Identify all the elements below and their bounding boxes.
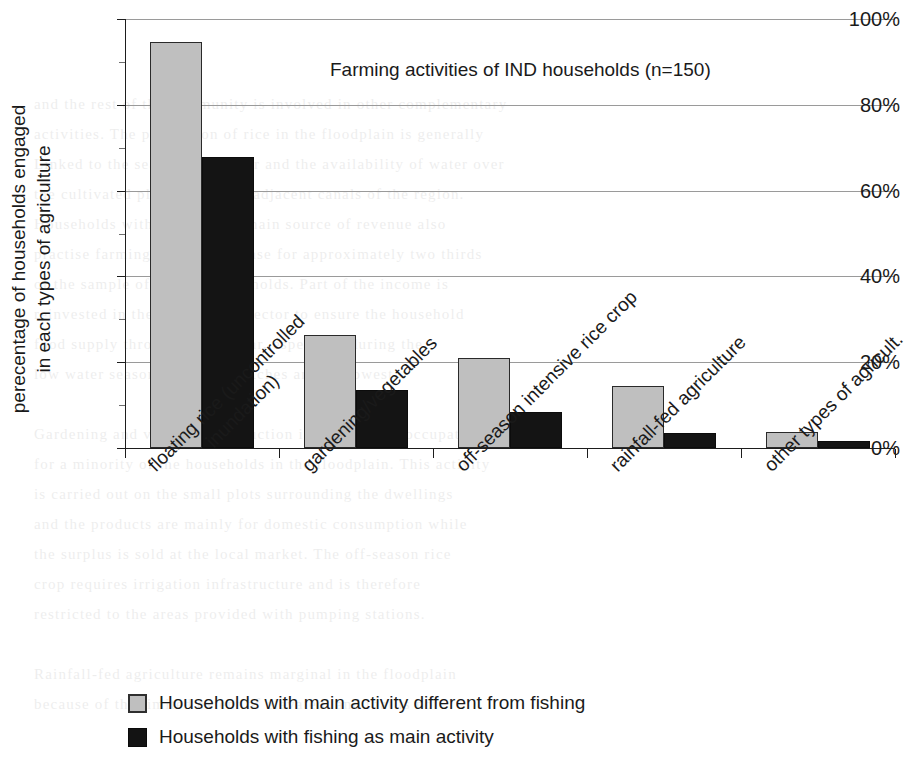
chart-legend: Households with main activity different … bbox=[128, 686, 585, 754]
y-tick-label-60pct: 60% bbox=[782, 179, 900, 202]
legend-swatch-light bbox=[128, 694, 147, 713]
legend-item-1: Households with main activity different … bbox=[128, 686, 585, 720]
x-tick-mark-5 bbox=[895, 449, 896, 458]
legend-swatch-dark bbox=[128, 728, 147, 747]
bar-series1-cat1 bbox=[150, 42, 202, 448]
y-tick-mark-100 bbox=[117, 19, 125, 20]
legend-label-1: Households with main activity different … bbox=[159, 692, 585, 714]
legend-item-2: Households with fishing as main activity bbox=[128, 720, 585, 754]
y-tick-mark-40 bbox=[117, 276, 125, 277]
x-axis-line bbox=[125, 448, 895, 449]
x-tick-mark-3 bbox=[587, 449, 588, 458]
bar-series2-cat4 bbox=[664, 433, 716, 448]
y-tick-mark-0 bbox=[117, 448, 125, 449]
x-tick-mark-1 bbox=[279, 449, 280, 458]
y-tick-mark-80 bbox=[117, 105, 125, 106]
y-axis-line bbox=[125, 19, 126, 449]
y-tick-label-100pct: 100% bbox=[782, 8, 900, 31]
y-tick-label-40pct: 40% bbox=[782, 265, 900, 288]
x-tick-mark-4 bbox=[741, 449, 742, 458]
y-tick-label-80pct: 80% bbox=[782, 93, 900, 116]
y-axis-title: perecentage of households engaged in eac… bbox=[6, 69, 56, 449]
x-tick-mark-2 bbox=[433, 449, 434, 458]
y-axis-title-line-1: perecentage of households engaged bbox=[6, 69, 31, 449]
x-tick-mark-0 bbox=[125, 449, 126, 458]
y-tick-mark-20 bbox=[117, 362, 125, 363]
y-axis-title-line-2: in each types of agriculture bbox=[31, 69, 56, 449]
gridline-100 bbox=[125, 19, 895, 20]
y-tick-mark-60 bbox=[117, 191, 125, 192]
gridline-80 bbox=[125, 105, 895, 106]
legend-label-2: Households with fishing as main activity bbox=[159, 726, 494, 748]
